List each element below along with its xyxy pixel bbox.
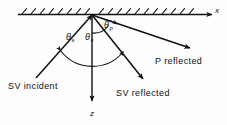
surface-hatching bbox=[22, 9, 194, 14]
theta-p-subscript: p bbox=[110, 25, 114, 31]
theta-p-label: θp bbox=[104, 21, 113, 30]
theta-s-left-label: θs bbox=[66, 33, 75, 42]
theta-symbol: θ bbox=[66, 32, 71, 42]
x-axis-label: x bbox=[215, 7, 219, 15]
sv-incident-ray bbox=[36, 15, 92, 78]
theta-symbol: θ bbox=[104, 20, 109, 30]
theta-symbol: θ bbox=[85, 32, 90, 42]
wave-reflection-diagram: x z θs θs θp SV incident SV reflected P … bbox=[0, 0, 227, 125]
theta-s-right-label: θs bbox=[85, 33, 94, 42]
theta-s-subscript: s bbox=[91, 37, 94, 43]
z-axis-label: z bbox=[90, 110, 94, 118]
theta-s-subscript: s bbox=[72, 37, 75, 43]
sv-reflected-label: SV reflected bbox=[116, 89, 170, 98]
sv-reflected-ray bbox=[92, 15, 143, 79]
sv-incident-label: SV incident bbox=[8, 82, 58, 91]
p-reflected-label: P reflected bbox=[155, 57, 202, 66]
